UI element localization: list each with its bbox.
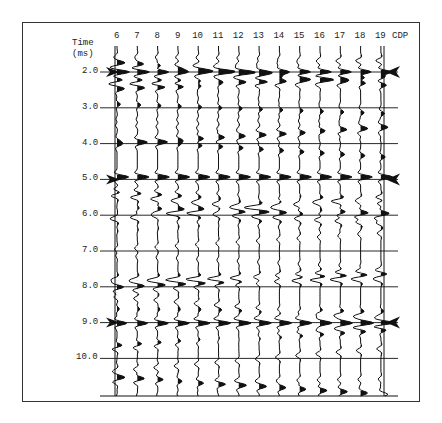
seismic-wiggle-plot — [0, 0, 442, 423]
